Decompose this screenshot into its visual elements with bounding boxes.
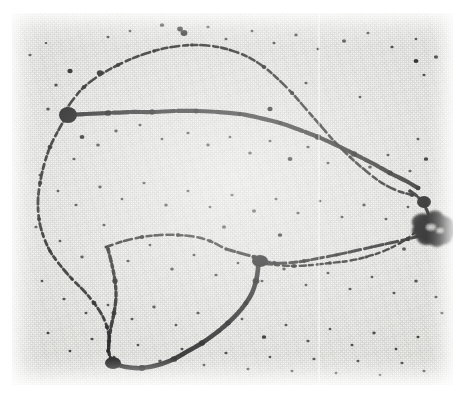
junction-mid-junction bbox=[252, 255, 268, 267]
speck bbox=[372, 332, 375, 335]
speck bbox=[247, 368, 250, 371]
speck bbox=[273, 42, 276, 45]
strand-bead bbox=[193, 109, 199, 114]
speck bbox=[408, 170, 411, 173]
strand-upper-outer-arc bbox=[64, 45, 412, 195]
filament-overlay bbox=[12, 13, 453, 385]
speck bbox=[74, 204, 77, 207]
speck bbox=[34, 226, 37, 229]
strand-bead bbox=[224, 248, 227, 251]
speck bbox=[348, 288, 351, 291]
aggregate-lobe bbox=[412, 224, 426, 237]
junction-right-node bbox=[417, 196, 431, 208]
speck bbox=[400, 362, 403, 365]
strand-group bbox=[37, 44, 432, 372]
strand-bead bbox=[315, 134, 321, 140]
strand-bead bbox=[171, 356, 177, 362]
speck bbox=[114, 130, 117, 133]
speck bbox=[306, 146, 309, 149]
strand-bead bbox=[48, 145, 53, 149]
dense-aggregate bbox=[412, 210, 453, 246]
speck bbox=[362, 204, 365, 207]
speck bbox=[312, 358, 315, 361]
strand-bead bbox=[208, 239, 212, 242]
speck bbox=[417, 138, 420, 141]
speck bbox=[222, 225, 226, 228]
speck bbox=[414, 279, 418, 282]
speck bbox=[131, 318, 134, 321]
speck bbox=[359, 96, 362, 98]
strand-bead bbox=[278, 121, 283, 125]
speck bbox=[368, 165, 372, 168]
strand-bead bbox=[328, 261, 332, 265]
speck bbox=[72, 158, 75, 161]
speck bbox=[47, 332, 50, 335]
aggregate-lobe bbox=[429, 237, 444, 247]
speck bbox=[149, 244, 152, 246]
speck bbox=[107, 36, 110, 39]
speck bbox=[224, 352, 227, 355]
speck bbox=[262, 335, 266, 339]
strand-bead bbox=[387, 171, 393, 176]
speck bbox=[126, 260, 129, 263]
strand-bead bbox=[334, 253, 338, 256]
speck bbox=[80, 256, 83, 259]
speck bbox=[225, 38, 228, 41]
speck bbox=[187, 190, 190, 193]
strand-bead bbox=[199, 340, 205, 345]
strand-bead bbox=[318, 123, 322, 126]
strand-bead bbox=[398, 242, 401, 245]
aggregate-notch bbox=[437, 229, 443, 233]
micrograph-figure: branched circular DNA molecule (theta / … bbox=[0, 0, 461, 402]
speck bbox=[415, 38, 418, 40]
speck bbox=[305, 284, 308, 286]
speck bbox=[241, 318, 244, 320]
strand-bead bbox=[105, 110, 111, 116]
speck bbox=[230, 194, 233, 197]
strand-bead bbox=[408, 189, 412, 192]
speck bbox=[357, 360, 360, 363]
strand-bead bbox=[225, 321, 231, 326]
speck bbox=[175, 324, 178, 326]
strand-inner-loop-bottom-heavy bbox=[112, 259, 258, 368]
strand-bead bbox=[82, 85, 87, 89]
speck bbox=[387, 154, 390, 157]
speck bbox=[69, 350, 72, 352]
speck bbox=[327, 272, 330, 275]
speck bbox=[181, 30, 188, 36]
speck bbox=[85, 312, 88, 315]
speck bbox=[423, 74, 426, 77]
speck bbox=[45, 42, 48, 44]
speck bbox=[41, 280, 44, 282]
speck bbox=[80, 135, 85, 139]
junction-bottom-corner bbox=[105, 357, 121, 369]
speck bbox=[278, 233, 282, 237]
speck bbox=[103, 224, 106, 227]
speck bbox=[143, 182, 146, 185]
speck bbox=[139, 124, 142, 127]
strand-bead bbox=[229, 49, 232, 52]
speck bbox=[107, 304, 110, 306]
strand-lower-right-converge bbox=[258, 227, 420, 266]
strand-mid-heavy-strand bbox=[66, 111, 418, 188]
strand-bead bbox=[105, 325, 109, 329]
strand-bead bbox=[262, 65, 267, 69]
speck bbox=[417, 336, 420, 339]
speck bbox=[341, 216, 344, 219]
strand-bead bbox=[176, 233, 180, 237]
speck bbox=[269, 140, 272, 143]
strand-bead bbox=[111, 311, 116, 316]
strand-bead bbox=[243, 301, 248, 306]
speck bbox=[393, 292, 396, 295]
strand-bead bbox=[190, 44, 193, 47]
speck bbox=[306, 340, 309, 343]
speck bbox=[440, 312, 443, 315]
speck bbox=[203, 364, 206, 366]
speck bbox=[161, 138, 164, 140]
speck bbox=[379, 374, 382, 376]
speck bbox=[209, 206, 212, 208]
strand-bead bbox=[237, 112, 242, 117]
speck bbox=[402, 247, 406, 250]
speck bbox=[46, 107, 50, 110]
speck bbox=[67, 69, 72, 73]
